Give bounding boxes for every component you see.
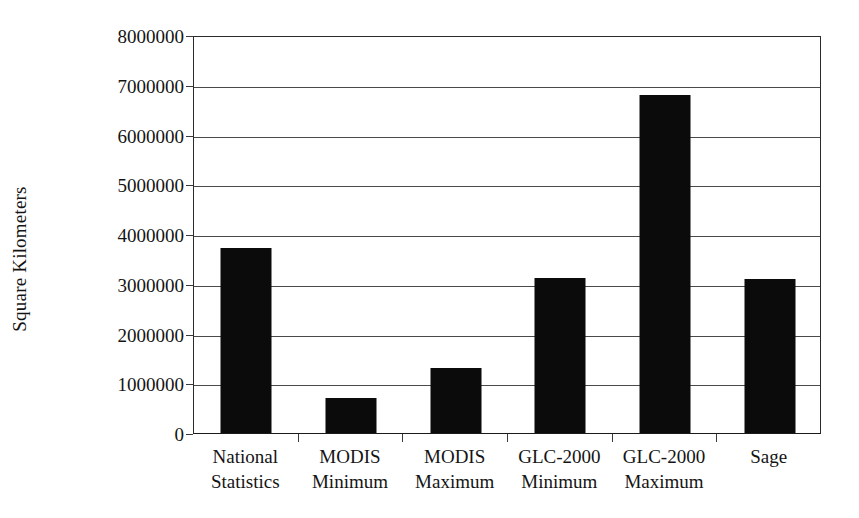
bar-chart: Square Kilometers 0100000020000003000000…: [0, 0, 859, 518]
y-axis-tick-labels: 0100000020000003000000400000050000006000…: [58, 36, 184, 434]
bar[interactable]: [535, 278, 586, 433]
y-axis-tick-label: 4000000: [58, 226, 184, 245]
y-axis-tick-label: 5000000: [58, 176, 184, 195]
bar[interactable]: [744, 279, 795, 433]
y-axis-tick-mark: [186, 434, 193, 435]
x-axis-category-label-line1: National: [213, 446, 278, 467]
y-axis-tick-label: 7000000: [58, 76, 184, 95]
bar-slot: [613, 37, 718, 433]
plot-area: [193, 36, 821, 434]
x-axis-category-label: NationalStatistics: [193, 444, 298, 494]
x-axis-category-label: MODISMaximum: [402, 444, 507, 494]
x-axis-category-label-line2: Statistics: [193, 469, 298, 494]
y-axis-tick-mark: [186, 285, 193, 286]
x-axis-category-label-line1: GLC-2000: [623, 446, 705, 467]
y-axis-tick-mark: [186, 185, 193, 186]
x-axis-category-label-line1: MODIS: [319, 446, 380, 467]
x-axis-tick-mark: [716, 434, 717, 442]
bar-slot: [299, 37, 404, 433]
bar[interactable]: [221, 248, 272, 433]
x-axis-category-label-line2: Maximum: [612, 469, 717, 494]
x-axis-category-label-line2: Minimum: [507, 469, 612, 494]
y-axis-tick-label: 1000000: [58, 375, 184, 394]
y-axis-title: Square Kilometers: [0, 0, 40, 518]
x-axis-category-label: MODISMinimum: [298, 444, 403, 494]
x-axis-category-label-line1: MODIS: [424, 446, 485, 467]
x-axis-category-label-line1: Sage: [750, 446, 787, 467]
x-axis-category-label: GLC-2000Maximum: [612, 444, 717, 494]
bar[interactable]: [325, 398, 376, 433]
bar[interactable]: [639, 95, 690, 433]
x-axis-category-label-line2: Minimum: [298, 469, 403, 494]
y-axis-tick-mark: [186, 86, 193, 87]
x-axis-tick-marks: [193, 434, 821, 442]
x-axis-category-label: GLC-2000Minimum: [507, 444, 612, 494]
x-axis-tick-mark: [298, 434, 299, 442]
x-axis-tick-mark: [507, 434, 508, 442]
y-axis-tick-label: 3000000: [58, 275, 184, 294]
bar[interactable]: [430, 368, 481, 433]
x-axis-category-label: Sage: [716, 444, 821, 469]
y-axis-tick-label: 8000000: [58, 27, 184, 46]
x-axis-category-label-line1: GLC-2000: [518, 446, 600, 467]
y-axis-tick-label: 2000000: [58, 325, 184, 344]
y-axis-tick-mark: [186, 235, 193, 236]
y-axis-tick-mark: [186, 136, 193, 137]
y-axis-tick-mark: [186, 335, 193, 336]
bar-slot: [194, 37, 299, 433]
x-axis-tick-mark: [612, 434, 613, 442]
y-axis-tick-label: 0: [58, 425, 184, 444]
bar-slot: [508, 37, 613, 433]
bars-layer: [194, 37, 820, 433]
x-axis-category-label-line2: Maximum: [402, 469, 507, 494]
bar-slot: [717, 37, 822, 433]
y-axis-tick-mark: [186, 384, 193, 385]
x-axis-tick-mark: [402, 434, 403, 442]
y-axis-tick-label: 6000000: [58, 126, 184, 145]
x-axis-category-labels: NationalStatisticsMODISMinimumMODISMaxim…: [193, 444, 821, 504]
bar-slot: [403, 37, 508, 433]
y-axis-tick-mark: [186, 36, 193, 37]
